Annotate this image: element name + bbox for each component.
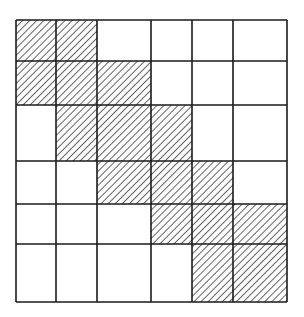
hatched-cell xyxy=(56,61,97,105)
empty-cell xyxy=(56,204,97,244)
empty-cell xyxy=(56,244,97,302)
hatched-cell xyxy=(151,161,192,204)
hatched-cell xyxy=(56,105,97,161)
banded-matrix-grid xyxy=(0,0,304,317)
hatched-cell xyxy=(192,244,233,302)
hatched-cell xyxy=(97,61,151,105)
hatched-cell xyxy=(151,105,192,161)
empty-cell xyxy=(97,20,151,61)
empty-cell xyxy=(151,244,192,302)
hatched-cell xyxy=(233,204,287,244)
hatched-cell xyxy=(16,20,56,61)
empty-cell xyxy=(151,61,192,105)
empty-cell xyxy=(233,20,287,61)
empty-cell xyxy=(233,61,287,105)
empty-cell xyxy=(233,161,287,204)
hatched-cell xyxy=(97,161,151,204)
empty-cell xyxy=(56,161,97,204)
empty-cell xyxy=(97,204,151,244)
empty-cell xyxy=(97,244,151,302)
hatched-cell xyxy=(151,204,192,244)
empty-cell xyxy=(16,244,56,302)
empty-cell xyxy=(16,105,56,161)
hatched-cell xyxy=(192,161,233,204)
hatched-cell xyxy=(97,105,151,161)
empty-cell xyxy=(16,204,56,244)
empty-cell xyxy=(233,105,287,161)
hatched-cell xyxy=(56,20,97,61)
empty-cell xyxy=(192,105,233,161)
hatched-cell xyxy=(233,244,287,302)
empty-cell xyxy=(16,161,56,204)
empty-cell xyxy=(192,20,233,61)
empty-cell xyxy=(192,61,233,105)
hatched-cell xyxy=(16,61,56,105)
empty-cell xyxy=(151,20,192,61)
hatched-cell xyxy=(192,204,233,244)
